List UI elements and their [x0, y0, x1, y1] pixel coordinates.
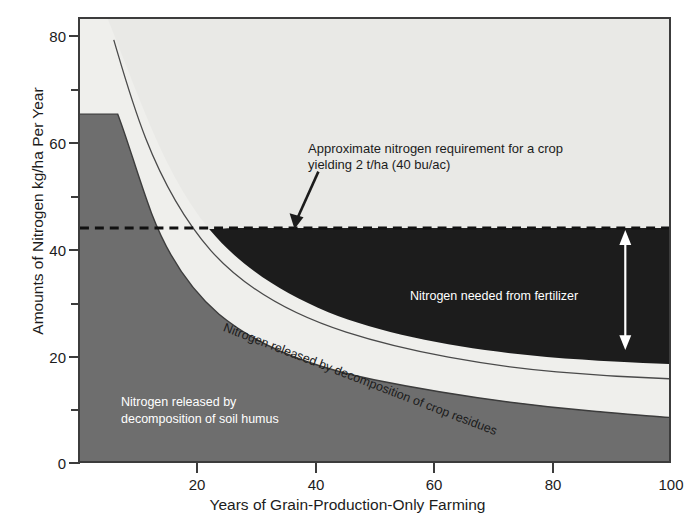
- x-tick-mark-60: [433, 463, 435, 473]
- y-tick-label-0: 0: [22, 455, 66, 472]
- x-tick-label-20: 20: [189, 476, 206, 493]
- x-tick-label-80: 80: [545, 476, 562, 493]
- x-tick-label-60: 60: [426, 476, 443, 493]
- x-axis-title: Years of Grain-Production-Only Farming: [0, 496, 695, 514]
- fertilizer-region-label: Nitrogen needed from fertilizer: [410, 288, 578, 304]
- x-tick-label-100: 100: [658, 476, 683, 493]
- x-tick-mark-20: [196, 463, 198, 473]
- x-tick-mark-40: [315, 463, 317, 473]
- soil-humus-region-label: Nitrogen released by decomposition of so…: [121, 394, 279, 428]
- x-tick-mark-80: [552, 463, 554, 473]
- requirement-annotation: Approximate nitrogen requirement for a c…: [308, 141, 563, 173]
- y-axis-title: Amounts of Nitrogen kg/ha Per Year: [29, 1, 47, 421]
- plot-area: Approximate nitrogen requirement for a c…: [78, 17, 671, 463]
- requirement-arrow-icon: [290, 172, 319, 229]
- x-tick-label-40: 40: [308, 476, 325, 493]
- nitrogen-supply-chart: 80 60 40 20 0 Amounts of Nitrogen kg/ha …: [0, 0, 695, 523]
